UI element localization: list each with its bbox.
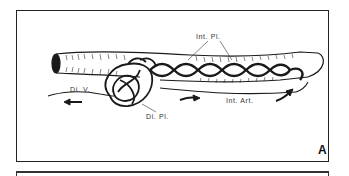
intestinal-plexus xyxy=(150,64,302,80)
di-pl-leader xyxy=(142,104,156,112)
figure-panel-b-frame-top xyxy=(16,171,329,176)
label-di-pl: Di. Pl. xyxy=(146,113,169,120)
int-pl-leader-right xyxy=(220,41,232,60)
diaphragmatic-plexus xyxy=(105,58,156,106)
label-int-art: Int. Art. xyxy=(226,97,254,104)
flow-arrows xyxy=(64,89,293,105)
label-int-pl: Int. Pl. xyxy=(196,33,221,40)
panel-letter: A xyxy=(318,143,327,157)
intestine-plexus-illustration xyxy=(0,0,349,176)
label-di-v: Di. V. xyxy=(70,86,90,93)
intestinal-artery-line xyxy=(160,88,296,94)
int-pl-leader-left xyxy=(188,41,208,60)
